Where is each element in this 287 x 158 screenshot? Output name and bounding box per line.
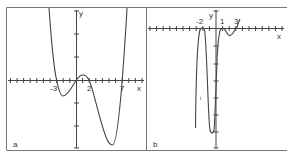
panel-b-stray-mark: i <box>200 95 201 101</box>
panel-b-curve <box>196 19 241 133</box>
panel-b-x-label: x <box>277 32 281 41</box>
panel-b-label: b <box>153 140 158 149</box>
panel-b-tick-label-1: 1 <box>220 17 225 26</box>
figure: y x -3 2 7 a <box>0 0 287 158</box>
panel-a-y-label: y <box>79 9 83 18</box>
panel-a: y x -3 2 7 a <box>8 8 144 149</box>
panel-b-tick-label-neg2: -2 <box>196 17 204 26</box>
panel-a-label: a <box>13 140 18 149</box>
panel-b-y-label: y <box>209 11 213 20</box>
panel-b: y x -2 1 3 b i <box>148 10 284 149</box>
panel-a-tick-label-neg3: -3 <box>50 84 58 93</box>
panel-a-curve <box>49 8 127 145</box>
panel-a-x-label: x <box>137 84 141 93</box>
